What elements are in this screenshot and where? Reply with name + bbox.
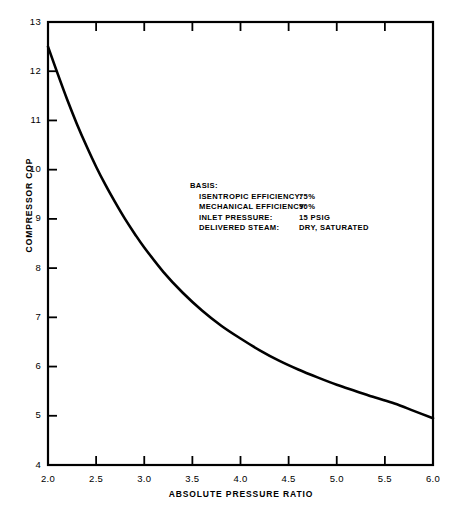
x-tick-label: 2.0 — [28, 473, 68, 484]
annotation-row: MECHANICAL EFFICIENCY:90% — [190, 202, 369, 213]
x-axis-title: ABSOLUTE PRESSURE RATIO — [48, 489, 434, 499]
annotation-heading: BASIS: — [190, 181, 369, 192]
annotation-label: DELIVERED STEAM: — [199, 223, 299, 234]
y-tick-label: 6 — [15, 360, 41, 371]
y-tick-label: 7 — [15, 311, 41, 322]
x-tick-label: 6.0 — [413, 473, 453, 484]
x-tick-label: 3.5 — [172, 473, 212, 484]
annotation-label: ISENTROPIC EFFICIENCY: — [199, 192, 299, 203]
annotation-value: 15 PSIG — [299, 213, 330, 224]
y-tick-label: 4 — [15, 459, 41, 470]
y-tick-label: 12 — [15, 65, 41, 76]
chart-plot-area — [0, 0, 460, 518]
x-tick-label: 5.0 — [317, 473, 357, 484]
annotation-value: 90% — [299, 202, 315, 213]
x-tick-label: 4.5 — [269, 473, 309, 484]
annotation-row: INLET PRESSURE:15 PSIG — [190, 213, 369, 224]
annotation-value: 75% — [299, 192, 315, 203]
x-tick-label: 2.5 — [76, 473, 116, 484]
annotation-label: MECHANICAL EFFICIENCY: — [199, 202, 299, 213]
annotation-row: ISENTROPIC EFFICIENCY:75% — [190, 192, 369, 203]
x-tick-label: 3.0 — [124, 473, 164, 484]
annotation-label: INLET PRESSURE: — [199, 213, 299, 224]
annotation-value: DRY, SATURATED — [299, 223, 369, 234]
y-axis-title: COMPRESSOR COP — [24, 135, 34, 275]
y-tick-label: 13 — [15, 16, 41, 27]
axis-ticks — [48, 22, 385, 465]
y-tick-label: 5 — [15, 409, 41, 420]
chart-container: 45678910111213 2.02.53.03.54.04.55.05.56… — [0, 0, 460, 518]
basis-annotation-block: BASIS: ISENTROPIC EFFICIENCY:75% MECHANI… — [190, 181, 369, 234]
x-tick-label: 4.0 — [221, 473, 261, 484]
annotation-row: DELIVERED STEAM:DRY, SATURATED — [190, 223, 369, 234]
x-tick-label: 5.5 — [365, 473, 405, 484]
y-tick-label: 11 — [15, 114, 41, 125]
